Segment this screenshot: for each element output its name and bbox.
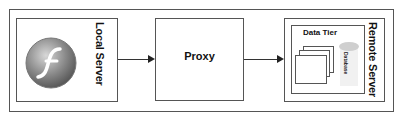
arrowhead-icon	[148, 55, 155, 63]
remote-server-label: Remote Server	[367, 22, 379, 98]
database-cylinder-top-icon	[339, 42, 359, 51]
local-server-label: Local Server	[94, 22, 106, 98]
data-tier-label: Data Tier	[291, 28, 349, 37]
page-stack-icon	[295, 55, 327, 84]
flash-player-icon	[24, 36, 78, 90]
arrowhead-icon	[277, 55, 284, 63]
proxy-label: Proxy	[155, 50, 244, 62]
database-label: Database	[343, 52, 349, 86]
arrow-proxy-to-remote	[244, 59, 279, 60]
arrow-local-to-proxy	[118, 59, 150, 60]
